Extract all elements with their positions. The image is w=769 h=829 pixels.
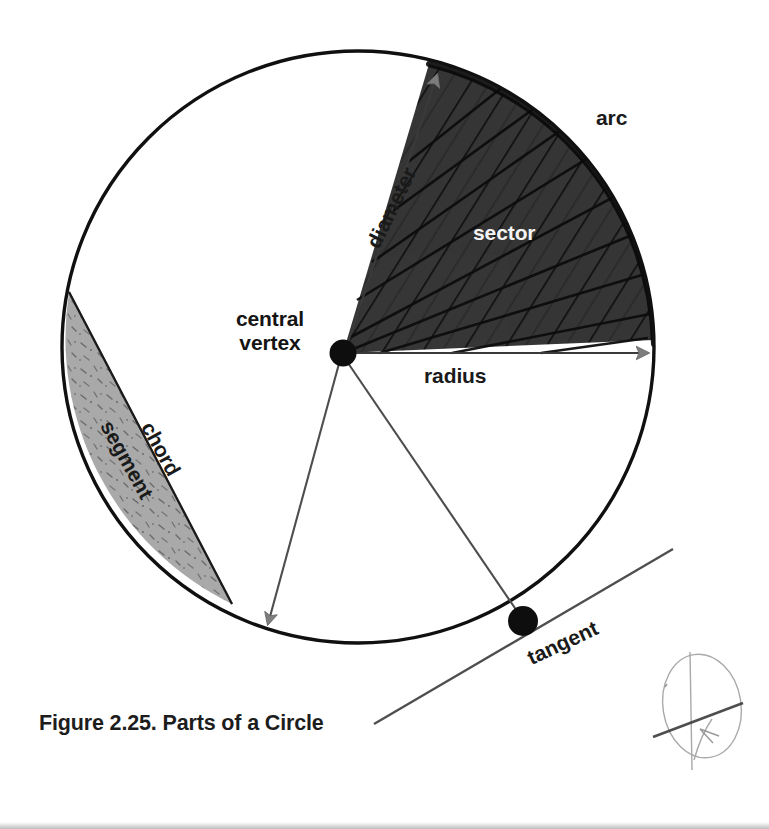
page-bottom-edge-strip [0, 822, 769, 829]
label-central-vertex-line1: central [205, 307, 335, 331]
figure-caption: Figure 2.25. Parts of a Circle [39, 711, 324, 736]
radius-to-tangent-line [348, 363, 519, 614]
label-radius: radius [424, 364, 486, 388]
sketch-watermark-arrow [653, 703, 743, 737]
label-arc: arc [596, 106, 627, 130]
label-central-vertex-line2: vertex [205, 331, 335, 355]
tangent-point-dot [508, 606, 538, 636]
figure-container: central vertex arc radius sector diamete… [0, 0, 769, 829]
circle-parts-diagram [0, 0, 769, 829]
sketch-watermark [655, 649, 748, 770]
label-central-vertex: central vertex [205, 307, 335, 354]
label-sector: sector [473, 221, 535, 245]
